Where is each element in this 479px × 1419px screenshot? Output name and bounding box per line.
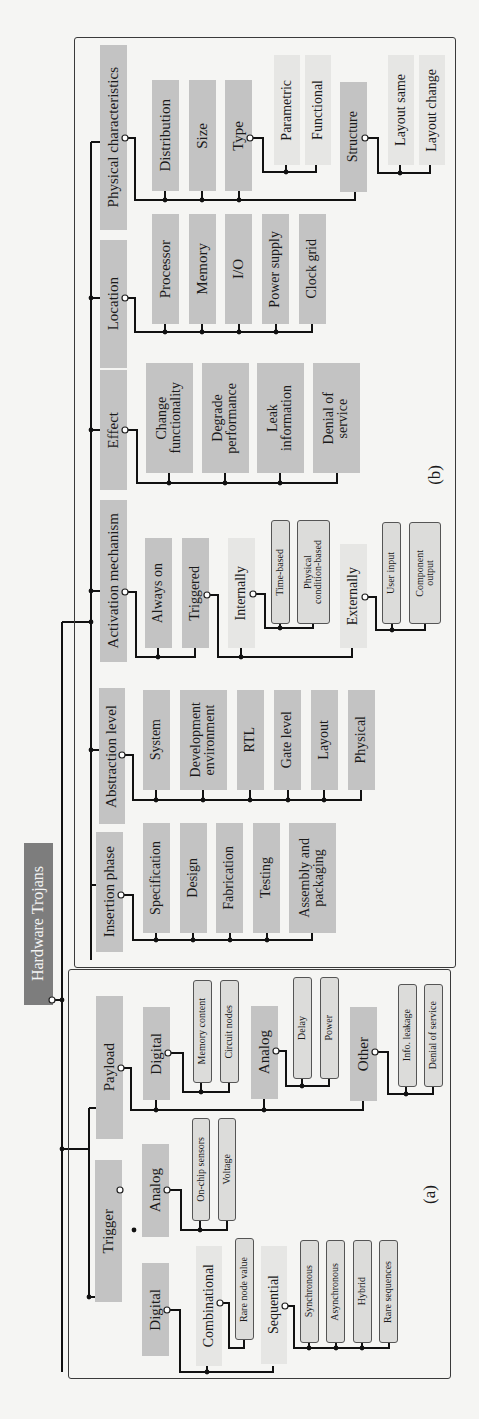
junction-dot-icon: [156, 655, 161, 660]
junction-dot-icon: [398, 171, 403, 176]
branch-origin-icon: [122, 427, 128, 433]
branch-origin-icon: [122, 589, 128, 595]
junction-dot-icon: [390, 628, 395, 633]
junction-dot-icon: [199, 1090, 204, 1095]
branch-origin-icon: [118, 1065, 124, 1071]
junction-dot-icon: [286, 798, 291, 803]
junction-dot-icon: [237, 330, 242, 335]
junction-dot-icon: [262, 1108, 267, 1113]
junction-dot-icon: [278, 481, 283, 486]
junction-dot-icon: [265, 938, 270, 943]
junction-dot-icon: [237, 198, 242, 203]
junction-dot-icon: [60, 998, 65, 1003]
branch-origin-icon: [165, 1050, 171, 1056]
branch-origin-icon: [164, 1187, 170, 1193]
junction-dot-icon: [89, 748, 94, 753]
junction-dot-icon: [404, 1092, 409, 1097]
branch-origin-icon: [247, 135, 253, 141]
junction-dot-icon: [89, 620, 94, 625]
junction-dot-icon: [322, 798, 327, 803]
junction-dot-icon: [60, 1147, 65, 1152]
junction-dot-icon: [284, 170, 289, 175]
junction-dot-icon: [200, 330, 205, 335]
junction-dot-icon: [163, 330, 168, 335]
junction-dot-icon: [223, 481, 228, 486]
branch-origin-icon: [118, 892, 124, 898]
junction-dot-icon: [198, 1228, 203, 1233]
branch-origin-icon: [117, 1187, 123, 1193]
branch-origin-icon: [372, 1049, 378, 1055]
junction-dot-icon: [163, 198, 168, 203]
branch-origin-icon: [362, 594, 368, 600]
junction-dot-icon: [154, 938, 159, 943]
hardware-trojan-taxonomy-diagram: (b)(a) Hardware TrojansPhysical characte…: [0, 0, 479, 1419]
junction-dot-icon: [300, 1084, 305, 1089]
branch-origin-icon: [204, 592, 210, 598]
junction-dot-icon: [89, 296, 94, 301]
junction-dot-icon: [154, 1108, 159, 1113]
connector-dots: [0, 0, 479, 1419]
branch-origin-icon: [273, 1048, 279, 1054]
junction-dot-icon: [89, 428, 94, 433]
branch-origin-icon: [250, 591, 256, 597]
junction-dot-icon: [87, 1295, 92, 1300]
junction-dot-icon: [132, 1228, 137, 1233]
junction-dot-icon: [154, 798, 159, 803]
branch-origin-icon: [217, 1300, 223, 1306]
branch-origin-icon: [122, 295, 128, 301]
branch-origin-icon: [122, 135, 128, 141]
branch-origin-icon: [119, 752, 125, 758]
junction-dot-icon: [248, 798, 253, 803]
branch-origin-icon: [282, 1303, 288, 1309]
junction-dot-icon: [167, 481, 172, 486]
branch-origin-icon: [49, 997, 55, 1003]
junction-dot-icon: [89, 589, 94, 594]
branch-origin-icon: [362, 135, 368, 141]
junction-dot-icon: [200, 198, 205, 203]
junction-dot-icon: [205, 1370, 210, 1375]
junction-dot-icon: [274, 330, 279, 335]
junction-dot-icon: [239, 655, 244, 660]
junction-dot-icon: [278, 626, 283, 631]
junction-dot-icon: [334, 1346, 339, 1351]
junction-dot-icon: [228, 938, 233, 943]
junction-dot-icon: [191, 938, 196, 943]
junction-dot-icon: [307, 1346, 312, 1351]
junction-dot-icon: [201, 798, 206, 803]
junction-dot-icon: [360, 1346, 365, 1351]
branch-origin-icon: [164, 1307, 170, 1313]
